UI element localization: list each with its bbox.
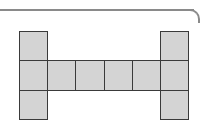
net-square — [47, 60, 76, 90]
net-square — [75, 60, 104, 90]
frame-top-right-corner — [186, 9, 200, 23]
frame-top-border — [0, 9, 194, 11]
net-square — [160, 31, 189, 61]
net-square — [19, 31, 48, 61]
net-square — [19, 60, 48, 90]
net-square — [132, 60, 161, 90]
net-square — [19, 90, 48, 120]
net-square — [160, 90, 189, 120]
net-square — [104, 60, 133, 90]
net-square — [160, 60, 189, 90]
